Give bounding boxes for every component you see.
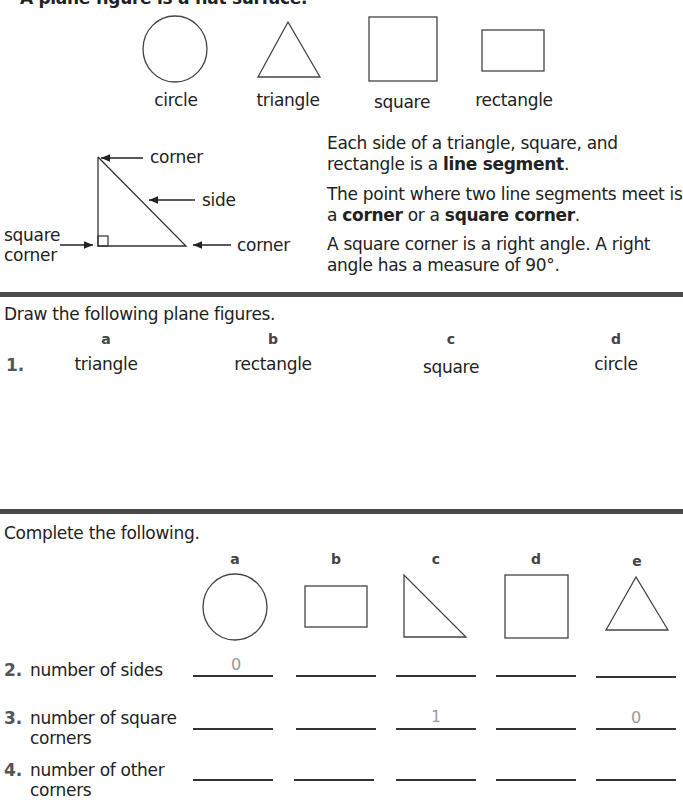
answer-line-4d[interactable] — [496, 779, 576, 781]
complete-square-shape — [505, 575, 568, 638]
labeled-right-triangle — [98, 157, 186, 246]
answer-line-2a[interactable] — [193, 675, 273, 677]
complete-circle-shape — [203, 574, 267, 640]
answer-line-4a[interactable] — [193, 779, 273, 781]
row-label-square-corners-2: corners — [30, 728, 91, 748]
definition-text: . — [575, 205, 580, 225]
answer-line-4e[interactable] — [596, 779, 676, 781]
diagram-label-bottom-corner: corner — [237, 235, 290, 255]
complete-triangle-shape — [606, 577, 668, 630]
draw-area-a[interactable] — [40, 380, 180, 490]
draw-column-letter-d: d — [611, 331, 621, 347]
term-corner: corner — [342, 205, 402, 225]
diagram-label-top-corner: corner — [150, 147, 203, 167]
intro-square-shape — [369, 17, 437, 81]
complete-column-letter-b: b — [331, 551, 341, 567]
definition-text: or a — [403, 205, 445, 225]
definition-corner: The point where two line segments meet i… — [327, 184, 683, 226]
diagram-label-square-corner-1: square — [4, 225, 60, 245]
draw-figure-triangle: triangle — [74, 354, 137, 374]
answer-line-2b[interactable] — [296, 675, 376, 677]
answer-value-3c: 1 — [431, 708, 441, 726]
definition-right-angle: A square corner is a right angle. A righ… — [327, 234, 683, 276]
complete-column-letter-c: c — [432, 551, 440, 567]
item-number-4: 4. — [4, 760, 22, 780]
draw-area-c[interactable] — [380, 380, 520, 490]
complete-instruction: Complete the following. — [4, 523, 200, 543]
complete-rectangle-shape — [305, 586, 367, 627]
complete-column-letter-e: e — [632, 553, 642, 569]
answer-line-2e[interactable] — [596, 676, 676, 678]
diagram-label-square-corner-2: corner — [4, 245, 57, 265]
intro-label-triangle: triangle — [256, 90, 319, 110]
section-divider — [0, 509, 683, 514]
complete-column-letter-a: a — [230, 551, 239, 567]
answer-value-3e: 0 — [631, 708, 641, 727]
intro-circle-shape — [143, 16, 207, 82]
row-label-square-corners-1: number of square — [30, 708, 177, 728]
diagram-label-side: side — [202, 190, 236, 210]
intro-rectangle-shape — [482, 30, 544, 71]
complete-column-letter-d: d — [531, 551, 541, 567]
term-line-segment: line segment — [443, 154, 564, 174]
draw-area-d[interactable] — [545, 380, 683, 490]
item-number-1: 1. — [6, 355, 24, 375]
intro-label-square: square — [374, 92, 430, 112]
row-label-sides: number of sides — [30, 660, 163, 680]
row-label-other-corners-2: corners — [30, 780, 91, 800]
answer-line-3b[interactable] — [296, 728, 376, 730]
item-number-2: 2. — [4, 660, 22, 680]
item-number-3: 3. — [4, 708, 22, 728]
definition-text: . — [564, 154, 569, 174]
intro-label-circle: circle — [154, 90, 197, 110]
intro-label-rectangle: rectangle — [475, 90, 553, 110]
intro-triangle-shape — [258, 22, 320, 77]
draw-figure-rectangle: rectangle — [234, 354, 312, 374]
row-label-other-corners-1: number of other — [30, 760, 164, 780]
draw-figure-circle: circle — [594, 354, 637, 374]
answer-line-3d[interactable] — [496, 728, 576, 730]
draw-column-letter-b: b — [268, 331, 278, 347]
section-divider — [0, 292, 683, 297]
answer-line-3c[interactable] — [396, 728, 476, 730]
complete-right-triangle-shape — [404, 575, 466, 637]
draw-area-b[interactable] — [200, 380, 350, 490]
answer-line-2c[interactable] — [396, 675, 476, 677]
draw-instruction: Draw the following plane figures. — [4, 304, 275, 324]
answer-line-2d[interactable] — [496, 675, 576, 677]
draw-figure-square: square — [423, 357, 479, 377]
draw-column-letter-c: c — [447, 331, 455, 347]
answer-line-3a[interactable] — [193, 728, 273, 730]
answer-line-4b[interactable] — [294, 779, 374, 781]
term-square-corner: square corner — [445, 205, 575, 225]
draw-column-letter-a: a — [101, 331, 110, 347]
answer-value-2a: 0 — [231, 655, 241, 674]
answer-line-4c[interactable] — [396, 779, 476, 781]
definition-line-segment: Each side of a triangle, square, and rec… — [327, 133, 683, 175]
answer-line-3e[interactable] — [596, 728, 676, 730]
